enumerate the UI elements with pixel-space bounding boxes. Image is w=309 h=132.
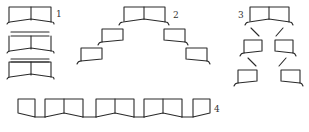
diagram-stroke: [251, 28, 259, 36]
diagram-stroke: [45, 113, 83, 117]
diagram-stroke: [18, 99, 35, 117]
diagram-stroke: [238, 70, 257, 83]
diagram-stroke: [81, 48, 102, 61]
diagram-stroke: [98, 42, 102, 45]
diagram-stroke: [275, 40, 293, 53]
label-4: 4: [214, 104, 220, 114]
figure-4-chain: [18, 99, 210, 117]
diagram-stroke: [102, 29, 123, 42]
diagram-stroke: [240, 53, 244, 56]
diagram-stroke: [185, 42, 188, 45]
diagram-stroke: [248, 58, 256, 66]
diagram-stroke: [77, 61, 81, 64]
diagram-stroke: [144, 113, 182, 117]
diagram-stroke: [9, 62, 51, 77]
diagram-stroke: [293, 53, 296, 56]
diagram-stroke: [279, 58, 286, 66]
label-2: 2: [173, 10, 179, 20]
diagram-stroke: [119, 19, 169, 25]
diagram-stroke: [245, 19, 293, 25]
figure-3-tree: [234, 7, 303, 86]
binding-diagram: 1 2 3 4: [0, 0, 309, 132]
diagram-canvas: 1 2 3 4: [0, 0, 309, 132]
diagram-stroke: [281, 70, 300, 83]
diagram-stroke: [96, 113, 134, 117]
diagram-stroke: [9, 7, 51, 22]
diagram-stroke: [234, 83, 238, 86]
label-1: 1: [56, 9, 62, 19]
diagram-stroke: [193, 99, 210, 117]
figure-2-pyramid: [77, 7, 210, 64]
diagram-stroke: [244, 40, 262, 53]
diagram-stroke: [300, 83, 303, 86]
diagram-stroke: [207, 61, 210, 64]
diagram-stroke: [164, 29, 185, 42]
label-3: 3: [238, 10, 244, 20]
diagram-stroke: [276, 28, 283, 36]
diagram-stroke: [186, 48, 207, 61]
figure-1-stacked: [7, 7, 54, 79]
